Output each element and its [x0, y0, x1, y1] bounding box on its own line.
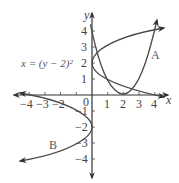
- equation-label: x = (y − 2)²: [20, 57, 73, 70]
- y-tick-label: −3: [75, 136, 88, 150]
- y-tick-label: 1: [81, 72, 87, 86]
- x-tick-label: 2: [120, 97, 126, 111]
- x-tick-label: 4: [151, 97, 157, 111]
- axes: [14, 13, 168, 178]
- y-tick-label: 2: [81, 56, 87, 70]
- curve-b-label: B: [49, 138, 57, 152]
- x-tick-label: −3: [36, 97, 49, 111]
- y-tick-label: −4: [75, 152, 88, 166]
- y-axis-label: y: [83, 8, 90, 22]
- curve-x-equals-y-minus-2-squared: [92, 28, 164, 97]
- x-tick-label: −4: [20, 97, 33, 111]
- curve-a-label: A: [151, 48, 160, 62]
- y-tick-label: 4: [81, 24, 87, 38]
- y-tick-label: −2: [75, 120, 88, 134]
- graph: y x 0 −4 −3 −2 1 2 3 4 4 3 2 1 −1 −2 −3 …: [0, 0, 179, 183]
- x-tick-label: 1: [104, 97, 110, 111]
- x-tick-label: 3: [136, 97, 142, 111]
- y-tick-label: −1: [75, 104, 88, 118]
- y-tick-label: 3: [81, 40, 87, 54]
- x-tick-label: −2: [52, 97, 65, 111]
- x-axis-label: x: [165, 93, 172, 107]
